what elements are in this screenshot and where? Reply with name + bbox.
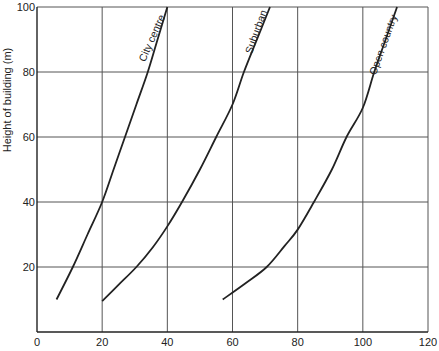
x-tick-label: 120: [419, 336, 437, 348]
curve-label-city-centre: City centre: [136, 12, 167, 63]
y-tick-label: 80: [23, 66, 35, 78]
y-tick-label: 100: [17, 1, 35, 13]
x-tick-label: 20: [96, 336, 108, 348]
gridlines: [37, 7, 428, 332]
curve-label-open-country: Open country: [366, 12, 399, 76]
curves: [57, 7, 397, 301]
x-tick-label: 100: [354, 336, 372, 348]
curve-labels: City centreSuburbanOpen country: [136, 8, 400, 76]
y-axis-ticks: 20406080100: [17, 1, 35, 273]
y-axis-label: Height of building (m): [1, 48, 13, 153]
y-tick-label: 60: [23, 131, 35, 143]
curve-label-suburban: Suburban: [242, 8, 269, 55]
x-axis-ticks: 020406080100120: [34, 336, 437, 348]
y-tick-label: 20: [23, 261, 35, 273]
x-tick-label: 80: [292, 336, 304, 348]
chart: 020406080100120 20406080100 Height of bu…: [0, 0, 439, 351]
x-tick-label: 60: [226, 336, 238, 348]
x-tick-label: 40: [161, 336, 173, 348]
y-tick-label: 40: [23, 196, 35, 208]
x-tick-label: 0: [34, 336, 40, 348]
